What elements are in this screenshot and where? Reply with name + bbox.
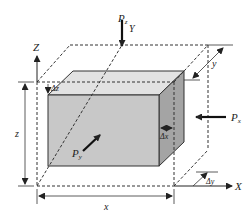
load-px: Px	[196, 111, 242, 125]
dz-label: Δz	[50, 84, 60, 93]
x-dimension-label: x	[103, 201, 109, 212]
x-axis-label: X	[234, 180, 243, 192]
y-dimension-label: y	[211, 58, 217, 69]
block-diagram: Z X Y Pz Px Py z x y Δz	[0, 0, 252, 223]
pz-subscript: z	[124, 18, 128, 26]
y-axis-label: Y	[129, 23, 136, 34]
increment-dz: Δz	[48, 84, 60, 93]
svg-text:Px: Px	[230, 111, 242, 125]
dimension-x: x	[37, 189, 174, 212]
z-axis-label: Z	[33, 41, 40, 53]
increment-dy: Δy	[193, 172, 218, 186]
dimension-z: z	[14, 82, 34, 186]
load-pz: Pz	[117, 12, 128, 46]
px-subscript: x	[237, 117, 242, 125]
solid-block	[48, 71, 184, 166]
block-front-face	[48, 95, 159, 166]
z-dimension-label: z	[14, 128, 19, 139]
dy-label: Δy	[205, 177, 215, 186]
dx-label: Δx	[159, 132, 169, 141]
svg-text:Pz: Pz	[117, 12, 128, 26]
